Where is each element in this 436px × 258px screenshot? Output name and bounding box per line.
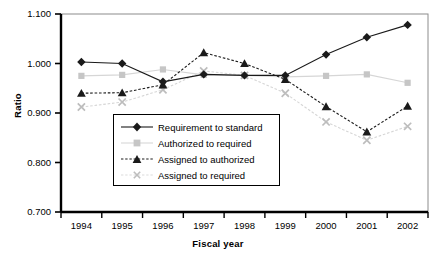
data-point [159,78,167,86]
y-tick-label: 1.000 [5,58,51,69]
legend-item: Requirement to standard [114,119,279,135]
legend-marker-requirement-to-standard [120,120,154,134]
data-point [77,89,86,97]
y-tick-label: 0.900 [5,107,51,118]
y-axis-title: Ratio [12,76,23,136]
y-tick-label: 0.800 [5,157,51,168]
legend-label: Assigned to required [154,170,245,181]
data-point [362,128,371,136]
legend-marker-assigned-to-authorized [120,152,154,166]
data-point [77,58,85,66]
legend-item: Assigned to authorized [114,151,279,167]
legend-item: Authorized to required [114,135,279,151]
x-axis-title: Fiscal year [0,238,436,249]
data-point [403,102,412,110]
data-point [199,48,208,56]
data-point [364,71,370,77]
y-tick-label: 0.700 [5,206,51,217]
data-point [282,90,289,97]
data-point [323,73,329,79]
data-point [119,72,125,78]
data-point [322,102,331,110]
legend-label: Assigned to authorized [154,154,255,165]
data-point [403,21,411,29]
data-point [322,118,329,125]
data-point [405,80,411,86]
data-point [404,123,411,130]
data-point [363,33,371,41]
legend-label: Requirement to standard [154,122,263,133]
data-point [119,99,126,106]
data-point [78,73,84,79]
legend-label: Authorized to required [154,138,251,149]
data-point [363,137,370,144]
data-point [118,59,126,67]
chart-legend: Requirement to standard Authorized to re… [113,114,280,186]
legend-marker-assigned-to-required [120,168,154,182]
x-tick-label: 2002 [384,220,432,231]
data-point [322,50,330,58]
legend-marker-authorized-to-required [120,136,154,150]
y-tick-label: 1.100 [5,8,51,19]
chart-figure: Ratio Fiscal year 0.7000.8000.9001.0001.… [0,0,436,258]
data-point [160,66,166,72]
data-series [77,21,412,86]
legend-item: Assigned to required [114,167,279,183]
